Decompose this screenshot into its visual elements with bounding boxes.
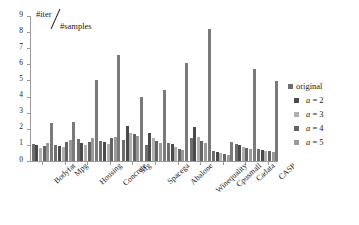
- x-axis-tick-labels: BodyfatMpgHousingConcreteMgSpacegaAbalon…: [0, 162, 300, 224]
- bar: [99, 141, 102, 161]
- bar: [190, 138, 193, 161]
- bar-group: [167, 16, 188, 161]
- bar: [69, 140, 72, 161]
- legend-label: a = 5: [306, 136, 324, 149]
- legend-swatch: [294, 140, 299, 145]
- x-axis-tick-label: Mpg: [73, 162, 90, 178]
- y-axis-tick-label: 6: [19, 59, 23, 67]
- bar: [35, 145, 38, 161]
- bar: [103, 142, 106, 161]
- bar: [46, 143, 49, 161]
- legend-label: original: [296, 80, 322, 93]
- bar: [208, 29, 211, 161]
- bar-group: [54, 16, 75, 161]
- legend-item: original: [288, 80, 358, 94]
- bar: [54, 145, 57, 161]
- bar: [272, 152, 275, 161]
- bar: [88, 142, 91, 161]
- y-axis-tick-label: 8: [19, 27, 23, 35]
- bar-series-container: [31, 16, 278, 161]
- bar: [32, 144, 35, 161]
- x-axis-tick-label: Spacega: [166, 162, 191, 186]
- bar: [107, 144, 110, 161]
- bar: [181, 150, 184, 161]
- legend-swatch: [294, 126, 299, 131]
- bar-group: [190, 16, 211, 161]
- bar: [219, 153, 222, 161]
- bar: [145, 145, 148, 161]
- bar: [242, 147, 245, 161]
- bar: [275, 81, 278, 161]
- bar-group: [212, 16, 233, 161]
- bar: [133, 134, 136, 161]
- bar-chart: #iter #samples 0123456789 BodyfatMpgHous…: [0, 0, 359, 225]
- bar: [193, 127, 196, 161]
- bar: [110, 138, 113, 161]
- legend-label: a = 2: [306, 94, 324, 107]
- bar: [185, 63, 188, 161]
- bar: [204, 143, 207, 161]
- legend-label: a = 3: [306, 108, 324, 121]
- bar-group: [32, 16, 53, 161]
- bar: [253, 69, 256, 161]
- bar: [238, 145, 241, 161]
- bar: [197, 137, 200, 161]
- y-axis-tick-label: 4: [19, 91, 23, 99]
- bar: [159, 143, 162, 161]
- bar: [148, 133, 151, 161]
- bar: [129, 133, 132, 161]
- legend-label: a = 4: [306, 122, 324, 135]
- bar: [50, 123, 53, 161]
- bar: [212, 151, 215, 161]
- bar: [174, 147, 177, 161]
- bar: [249, 149, 252, 161]
- bar: [264, 151, 267, 161]
- y-axis-tick-label: 9: [19, 11, 23, 19]
- bar: [167, 143, 170, 161]
- bar: [72, 122, 75, 161]
- bar: [152, 138, 155, 161]
- y-axis-tick-label: 5: [19, 75, 23, 83]
- bar: [155, 141, 158, 161]
- bar: [114, 137, 117, 161]
- legend-swatch: [288, 84, 293, 89]
- y-axis-tick-label: 3: [19, 107, 23, 115]
- bar: [223, 154, 226, 161]
- bar: [58, 146, 61, 161]
- bar: [126, 126, 129, 161]
- bar: [91, 138, 94, 161]
- legend: originala = 2a = 3a = 4a = 5: [288, 80, 358, 150]
- bar: [122, 140, 125, 161]
- bar: [171, 144, 174, 161]
- bar-group: [122, 16, 143, 161]
- bar: [136, 136, 139, 161]
- bar: [80, 143, 83, 161]
- bar: [230, 142, 233, 161]
- bar-group: [77, 16, 98, 161]
- bar-group: [99, 16, 120, 161]
- bar: [117, 55, 120, 161]
- bar-group: [235, 16, 256, 161]
- legend-swatch: [294, 112, 299, 117]
- bar: [227, 155, 230, 161]
- y-axis-tick-label: 7: [19, 43, 23, 51]
- bar: [257, 149, 260, 161]
- x-axis-tick-label: Abalone: [189, 162, 214, 186]
- bar: [200, 141, 203, 161]
- bar: [65, 142, 68, 161]
- bar: [268, 151, 271, 161]
- legend-item: a = 4: [288, 122, 358, 136]
- bar: [95, 80, 98, 161]
- bar: [84, 145, 87, 161]
- bar: [216, 152, 219, 161]
- legend-item: a = 2: [288, 94, 358, 108]
- bar: [77, 139, 80, 161]
- bar: [43, 146, 46, 161]
- bar: [62, 147, 65, 161]
- bar-group: [145, 16, 166, 161]
- legend-swatch: [294, 98, 299, 103]
- bar: [178, 149, 181, 161]
- bar: [39, 148, 42, 161]
- bar: [163, 90, 166, 161]
- x-axis-tick-label: Housing: [99, 162, 124, 186]
